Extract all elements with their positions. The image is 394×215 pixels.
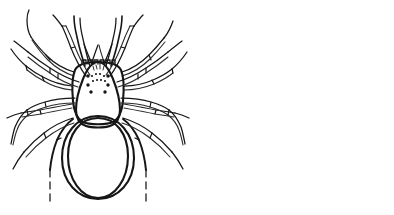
- right-spider-eye-7: [100, 79, 102, 81]
- right-spider-leg-8-joint: [150, 133, 152, 138]
- right-spider-leg-3-joint-2: [27, 110, 28, 115]
- right-spider-pedipalp-right: [104, 44, 112, 64]
- right-spider-leg-7-joint-2: [168, 110, 169, 115]
- right-spider-leg-8-tarsus: [172, 152, 183, 169]
- right-spider-illustration: [0, 0, 197, 215]
- right-spider-leg-7-joint: [150, 102, 151, 107]
- right-spider-leg-4-femur: [24, 118, 73, 152]
- right-spider-leg-8-femur: [123, 118, 172, 152]
- right-spider-leg-5-femur: [110, 26, 134, 76]
- right-spider-leg-2-tarsus: [14, 41, 28, 52]
- figure-root: [0, 0, 394, 215]
- right-spider-leg-6-femur-edge: [118, 57, 168, 87]
- right-spider-leg-1-femur: [62, 26, 86, 76]
- right-spider-eye-4: [103, 75, 105, 77]
- right-spider-leg-7-tibia-edge: [168, 115, 183, 145]
- right-spider-leg-3-femur: [27, 98, 75, 110]
- right-spider-leg-2-femur: [28, 52, 79, 82]
- right-spider-leg-1-joint: [71, 47, 75, 48]
- right-spider-eye-5: [92, 80, 94, 82]
- right-spider-chelicerae: [93, 65, 104, 70]
- right-spider-leg-7-femur-edge: [121, 103, 168, 115]
- right-spider-leg-7-femur: [121, 98, 169, 110]
- right-spider-leg-2-femur-edge: [28, 57, 78, 87]
- right-spider-eye-2: [95, 73, 97, 75]
- right-spider-leg-4-joint: [44, 133, 46, 138]
- right-spider-leg-5-tarsus: [134, 15, 143, 26]
- right-spider-leg-3-joint: [45, 102, 46, 107]
- right-spider-pedipalp-left: [84, 44, 92, 64]
- right-spider-eye-1: [91, 75, 93, 77]
- right-spider-leg-3-tibia: [11, 110, 27, 144]
- right-spider-eyes: [91, 73, 106, 82]
- right-spider-eye-6: [96, 79, 98, 81]
- right-spider-leg-3-femur-edge: [28, 103, 75, 115]
- right-spider-leg-6-femur: [117, 52, 168, 82]
- right-spider-leg-1-tarsus: [53, 15, 62, 26]
- right-spider-leg-5-joint: [121, 47, 125, 48]
- right-spider-eye-8: [104, 80, 106, 82]
- right-spider-eye-3: [99, 73, 101, 75]
- right-spider-leg-6-tarsus: [168, 41, 182, 52]
- right-spider-leg-4-tarsus: [13, 152, 24, 169]
- right-spider-leg-7-tibia: [169, 110, 185, 144]
- right-spider-leg-3-tibia-edge: [13, 115, 28, 145]
